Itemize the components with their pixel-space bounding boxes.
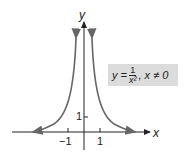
x-tick-pos1: 1 (97, 135, 103, 147)
y-tick-1: 1 (76, 110, 82, 122)
x-tick-neg1: −1 (59, 135, 72, 147)
y-axis-label: y (79, 8, 85, 22)
curve-left-branch (33, 38, 76, 132)
formula-condition: , x ≠ 0 (138, 69, 168, 81)
formula-fraction: 1 x² (129, 66, 137, 85)
equation-label: y = 1 x² , x ≠ 0 (108, 64, 178, 86)
formula-denominator: x² (129, 76, 137, 85)
x-axis-label: x (153, 126, 159, 140)
formula-lhs: y = (112, 69, 127, 81)
formula-numerator: 1 (129, 66, 136, 76)
